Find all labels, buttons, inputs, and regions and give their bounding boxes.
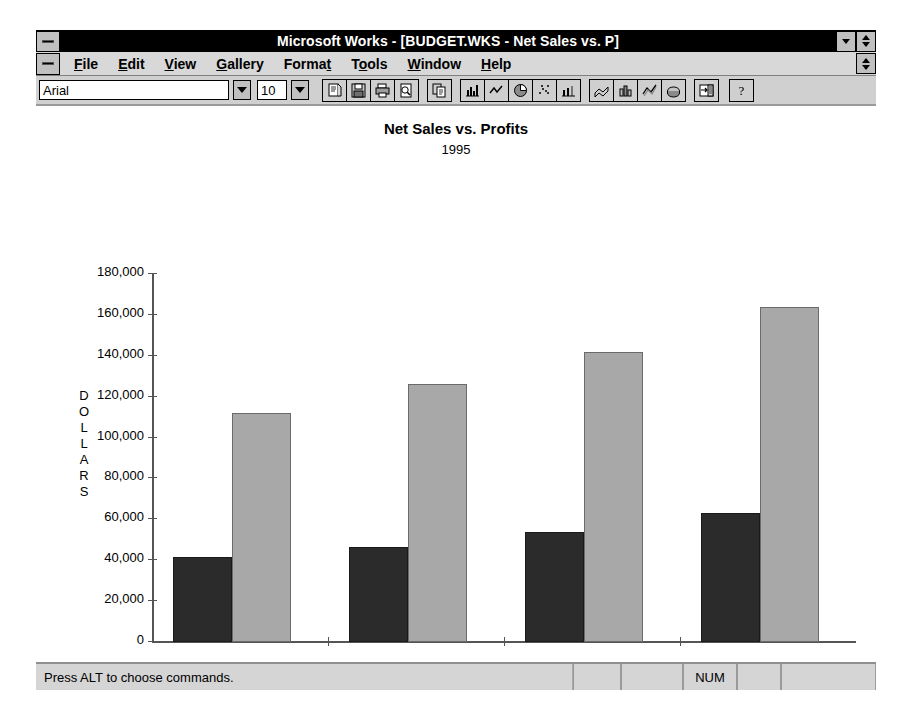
utility-button-group bbox=[694, 79, 718, 102]
y-axis-tick bbox=[148, 518, 157, 519]
status-segment-1 bbox=[573, 664, 621, 690]
font-name-input[interactable]: Arial bbox=[39, 80, 229, 100]
plot-area: 020,00040,00060,00080,000100,000120,0001… bbox=[36, 106, 876, 664]
y-axis-tick bbox=[148, 355, 157, 356]
y-axis-tick-label: 180,000 bbox=[62, 264, 144, 279]
chevron-down-icon bbox=[295, 87, 305, 93]
y-axis-tick-label: 140,000 bbox=[62, 346, 144, 361]
y-axis-tick bbox=[148, 559, 157, 560]
y-axis-line bbox=[152, 273, 154, 643]
status-segment-num: NUM bbox=[683, 664, 737, 690]
font-size-dropdown-button[interactable] bbox=[291, 80, 309, 100]
minimize-maximize-button[interactable] bbox=[856, 31, 876, 52]
print-preview-icon bbox=[398, 82, 415, 99]
chart-bar[interactable] bbox=[232, 413, 291, 642]
help-icon: ? bbox=[733, 82, 750, 99]
x-axis-tick bbox=[504, 637, 505, 646]
pie-chart-3d-icon bbox=[665, 82, 682, 99]
chart-3d-button-group bbox=[589, 79, 685, 102]
chart-bar[interactable] bbox=[408, 384, 467, 642]
status-segment-5 bbox=[781, 664, 876, 690]
scatter-chart-icon bbox=[536, 82, 553, 99]
restore-down-icon bbox=[842, 39, 850, 44]
bar-chart-3d-icon bbox=[617, 82, 634, 99]
y-axis-tick-label: 100,000 bbox=[62, 428, 144, 443]
y-axis-tick-label: 40,000 bbox=[62, 550, 144, 565]
application-window: Microsoft Works - [BUDGET.WKS - Net Sale… bbox=[36, 30, 876, 690]
restore-down-button[interactable] bbox=[836, 31, 856, 52]
menu-item-window[interactable]: Window bbox=[408, 56, 462, 72]
toolbar: Arial 10 bbox=[36, 76, 876, 106]
minimize-icon bbox=[862, 42, 870, 47]
print-preview-button[interactable] bbox=[394, 79, 419, 102]
print-button[interactable] bbox=[370, 79, 395, 102]
font-size-input[interactable]: 10 bbox=[257, 80, 287, 100]
chart-type-button-group bbox=[460, 79, 580, 102]
chart-bar[interactable] bbox=[701, 513, 760, 642]
font-name-dropdown-button[interactable] bbox=[233, 80, 251, 100]
y-axis-tick-label: 160,000 bbox=[62, 305, 144, 320]
menu-item-file[interactable]: File bbox=[74, 56, 98, 72]
chart-bar[interactable] bbox=[584, 352, 643, 642]
chart-bar[interactable] bbox=[173, 557, 232, 642]
menu-item-gallery[interactable]: Gallery bbox=[216, 56, 263, 72]
menu-bar: File Edit View Gallery Format Tools Wind… bbox=[36, 52, 876, 76]
new-document-icon bbox=[326, 82, 343, 99]
print-icon bbox=[374, 82, 391, 99]
line-chart-button[interactable] bbox=[484, 79, 509, 102]
status-segment-2 bbox=[621, 664, 683, 690]
bar-chart-3d-button[interactable] bbox=[613, 79, 638, 102]
clipboard-button-group bbox=[427, 79, 451, 102]
combo-chart-button[interactable] bbox=[556, 79, 581, 102]
menu-item-tools[interactable]: Tools bbox=[351, 56, 387, 72]
new-document-button[interactable] bbox=[322, 79, 347, 102]
y-axis-tick bbox=[148, 273, 157, 274]
pie-chart-3d-button[interactable] bbox=[661, 79, 686, 102]
y-axis-tick bbox=[148, 641, 157, 642]
y-axis-tick bbox=[148, 437, 157, 438]
x-axis-tick bbox=[328, 637, 329, 646]
menu-item-view[interactable]: View bbox=[165, 56, 197, 72]
line-chart-3d-button[interactable] bbox=[637, 79, 662, 102]
status-bar: Press ALT to choose commands. NUM bbox=[36, 662, 876, 690]
chart-bar[interactable] bbox=[525, 532, 584, 642]
save-icon bbox=[350, 82, 367, 99]
y-axis-tick-label: 120,000 bbox=[62, 387, 144, 402]
pie-chart-icon bbox=[512, 82, 529, 99]
y-axis-tick bbox=[148, 477, 157, 478]
x-axis-tick bbox=[680, 637, 681, 646]
system-menu-button[interactable] bbox=[36, 31, 60, 52]
menu-item-format[interactable]: Format bbox=[284, 56, 331, 72]
chart-client-area: Net Sales vs. Profits 1995 DOLLARS 020,0… bbox=[36, 106, 876, 664]
document-minimize-icon bbox=[862, 65, 870, 70]
copy-icon bbox=[431, 82, 448, 99]
document-system-menu-button[interactable] bbox=[36, 53, 60, 75]
bar-chart-icon bbox=[464, 82, 481, 99]
chart-bar[interactable] bbox=[760, 307, 819, 642]
help-button[interactable]: ? bbox=[729, 79, 754, 102]
y-axis-tick bbox=[148, 396, 157, 397]
pie-chart-button[interactable] bbox=[508, 79, 533, 102]
document-minimize-maximize-button[interactable] bbox=[856, 53, 876, 74]
title-bar: Microsoft Works - [BUDGET.WKS - Net Sale… bbox=[36, 30, 876, 52]
insert-chart-button[interactable] bbox=[694, 79, 719, 102]
status-message: Press ALT to choose commands. bbox=[36, 664, 573, 690]
window-title: Microsoft Works - [BUDGET.WKS - Net Sale… bbox=[60, 33, 836, 49]
y-axis-tick-label: 20,000 bbox=[62, 591, 144, 606]
area-chart-3d-button[interactable] bbox=[589, 79, 614, 102]
chart-bar[interactable] bbox=[349, 547, 408, 642]
copy-button[interactable] bbox=[427, 79, 452, 102]
system-menu-icon bbox=[42, 40, 54, 43]
y-axis-tick-label: 80,000 bbox=[62, 468, 144, 483]
line-chart-icon bbox=[488, 82, 505, 99]
menu-items: File Edit View Gallery Format Tools Wind… bbox=[60, 56, 856, 72]
menu-item-edit[interactable]: Edit bbox=[118, 56, 144, 72]
bar-chart-button[interactable] bbox=[460, 79, 485, 102]
insert-chart-icon bbox=[698, 82, 715, 99]
line-chart-3d-icon bbox=[641, 82, 658, 99]
combo-chart-icon bbox=[560, 82, 577, 99]
save-button[interactable] bbox=[346, 79, 371, 102]
maximize-icon bbox=[862, 35, 870, 40]
menu-item-help[interactable]: Help bbox=[481, 56, 511, 72]
scatter-chart-button[interactable] bbox=[532, 79, 557, 102]
